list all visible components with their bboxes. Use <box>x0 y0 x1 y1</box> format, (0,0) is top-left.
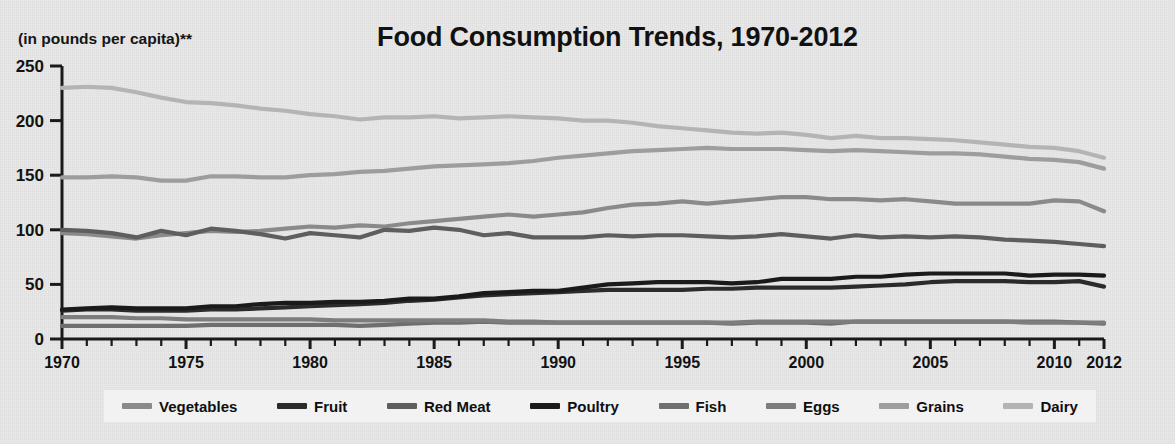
legend-label: Fish <box>696 398 727 415</box>
y-tick-label: 250 <box>16 57 44 76</box>
legend-label: Poultry <box>567 398 619 415</box>
x-tick-label: 2010 <box>1037 354 1073 371</box>
legend-swatch-icon <box>659 403 689 409</box>
x-tick-label: 1995 <box>664 354 700 371</box>
legend-label: Fruit <box>314 398 347 415</box>
legend-item-vegetables[interactable]: Vegetables <box>122 398 237 415</box>
x-tick-label: 1970 <box>44 354 80 371</box>
x-tick-label: 1980 <box>292 354 328 371</box>
series-line-eggs <box>62 317 1104 322</box>
y-tick-label: 0 <box>35 330 44 349</box>
y-tick-label: 200 <box>16 112 44 131</box>
legend-item-eggs[interactable]: Eggs <box>766 398 840 415</box>
series-line-vegetables <box>62 197 1104 239</box>
legend-swatch-icon <box>387 403 417 409</box>
series-line-dairy <box>62 87 1104 158</box>
legend-swatch-icon <box>879 403 909 409</box>
legend-label: Grains <box>916 398 964 415</box>
y-tick-label: 100 <box>16 221 44 240</box>
legend-label: Vegetables <box>159 398 237 415</box>
legend-label: Eggs <box>803 398 840 415</box>
chart-legend: VegetablesFruitRed MeatPoultryFishEggsGr… <box>104 390 1096 422</box>
y-axis-tick-labels: 050100150200250 <box>16 57 44 349</box>
legend-swatch-icon <box>277 403 307 409</box>
legend-item-grains[interactable]: Grains <box>879 398 964 415</box>
legend-item-red-meat[interactable]: Red Meat <box>387 398 491 415</box>
legend-swatch-icon <box>1003 403 1033 409</box>
legend-item-poultry[interactable]: Poultry <box>530 398 619 415</box>
legend-swatch-icon <box>122 403 152 409</box>
legend-item-dairy[interactable]: Dairy <box>1003 398 1078 415</box>
legend-label: Red Meat <box>424 398 491 415</box>
series-line-red-meat <box>62 228 1104 247</box>
x-tick-label: 2005 <box>913 354 949 371</box>
legend-label: Dairy <box>1040 398 1078 415</box>
x-tick-label: 1985 <box>416 354 452 371</box>
legend-swatch-icon <box>766 403 796 409</box>
series-line-grains <box>62 148 1104 181</box>
y-tick-label: 50 <box>25 275 44 294</box>
x-tick-label: 1975 <box>168 354 204 371</box>
chart-screenshot: (in pounds per capita)** Food Consumptio… <box>0 0 1175 444</box>
line-chart-svg: 050100150200250 197019751980198519901995… <box>0 0 1175 380</box>
x-tick-label: 2000 <box>788 354 824 371</box>
data-series-lines <box>62 87 1104 326</box>
x-tick-label: 1990 <box>540 354 576 371</box>
legend-item-fish[interactable]: Fish <box>659 398 727 415</box>
y-tick-label: 150 <box>16 166 44 185</box>
legend-item-fruit[interactable]: Fruit <box>277 398 347 415</box>
plot-area: 050100150200250 197019751980198519901995… <box>0 0 1175 380</box>
legend-swatch-icon <box>530 403 560 409</box>
y-axis-ticks <box>50 66 62 339</box>
x-tick-label: 2012 <box>1086 354 1122 371</box>
x-axis-tick-labels: 1970197519801985199019952000200520102012 <box>44 354 1122 371</box>
